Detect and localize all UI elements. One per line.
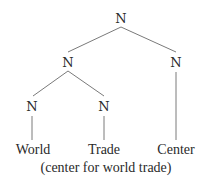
- node-left-right: N: [98, 100, 109, 113]
- syntax-tree-diagram: N N N N N World Trade Center (center for…: [0, 0, 202, 184]
- edge-left-leftright: [68, 71, 104, 96]
- edge-root-left: [68, 27, 121, 52]
- edge-root-right: [121, 27, 176, 52]
- gloss-text: (center for world trade): [41, 161, 172, 175]
- leaf-world: World: [16, 143, 51, 157]
- node-left-left: N: [26, 100, 37, 113]
- leaf-center: Center: [157, 143, 194, 157]
- leaf-trade: Trade: [88, 143, 120, 157]
- node-right: N: [170, 56, 181, 69]
- node-left: N: [62, 56, 73, 69]
- edge-left-leftleft: [33, 71, 68, 96]
- node-root: N: [115, 12, 126, 25]
